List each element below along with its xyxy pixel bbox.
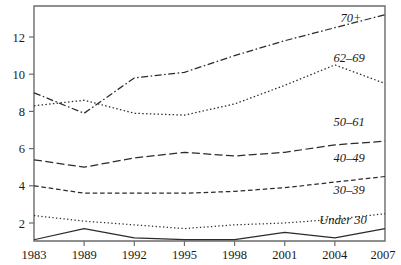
series-label-62-69: 62–69 [333, 51, 365, 65]
x-axis-ticks [84, 241, 335, 246]
series-line-70- [34, 15, 385, 114]
y-tick-label: 10 [13, 68, 26, 82]
series-label-30-39: 30–39 [332, 183, 365, 197]
series-label-70-: 70+ [341, 11, 362, 25]
line-chart: 24681012 1983198919921995199820012004200… [0, 0, 401, 265]
x-tick-label: 1983 [22, 248, 47, 262]
y-tick-label: 12 [13, 31, 26, 45]
series-line-62-69 [34, 65, 385, 115]
series-line-50-61 [34, 141, 385, 167]
x-tick-label: 2001 [272, 248, 297, 262]
y-axis-tick-labels: 24681012 [13, 31, 26, 231]
series-label-50-61: 50–61 [333, 115, 364, 129]
series-label-under-30: Under 30 [319, 213, 367, 227]
series-lines [34, 15, 385, 240]
y-tick-label: 2 [19, 217, 25, 231]
series-inline-labels: 70+62–6950–6140–4930–39Under 30 [319, 11, 367, 227]
axis-frame [34, 6, 385, 241]
y-tick-label: 8 [19, 105, 25, 119]
x-tick-label: 1998 [222, 248, 247, 262]
x-axis-tick-labels: 19831989199219951998200120042007 [22, 248, 396, 262]
series-label-40-49: 40–49 [333, 151, 365, 165]
x-tick-label: 2004 [322, 248, 348, 262]
series-line-under-30 [34, 229, 385, 240]
y-tick-label: 6 [19, 142, 25, 156]
x-tick-label: 1995 [172, 248, 197, 262]
series-line-40-49 [34, 177, 385, 194]
y-tick-label: 4 [19, 179, 26, 193]
y-axis-ticks [29, 37, 34, 223]
x-tick-label: 1989 [72, 248, 97, 262]
chart-plot-area: 24681012 1983198919921995199820012004200… [0, 0, 401, 265]
x-tick-label: 1992 [122, 248, 147, 262]
x-tick-label: 2007 [371, 248, 396, 262]
